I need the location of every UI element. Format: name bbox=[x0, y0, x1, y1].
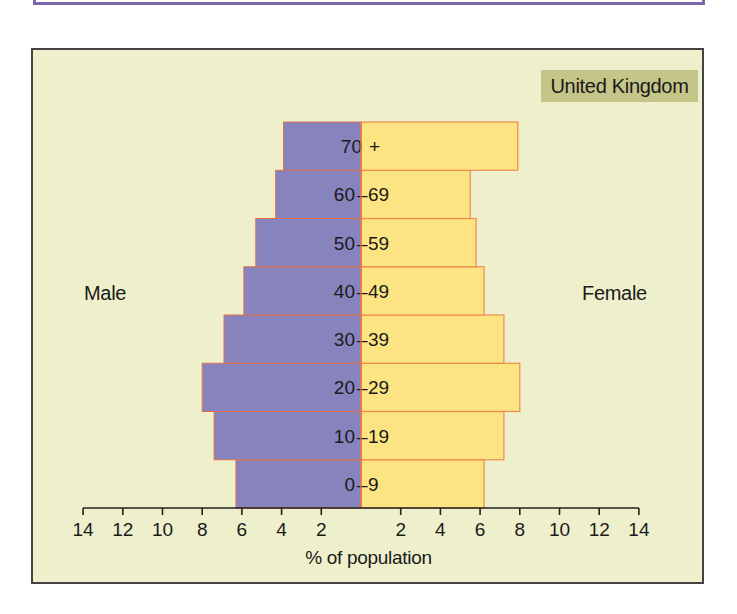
male-bars bbox=[202, 122, 361, 508]
male-label: Male bbox=[84, 282, 126, 305]
female-bars bbox=[361, 122, 520, 508]
tick-label: 4 bbox=[435, 519, 446, 540]
female-label: Female bbox=[582, 282, 647, 305]
tick-label: 6 bbox=[237, 519, 248, 540]
tick-label: 2 bbox=[395, 519, 406, 540]
tick-label: 6 bbox=[475, 519, 486, 540]
tick-label: 10 bbox=[152, 519, 173, 540]
x-axis: 14121086422468101214 bbox=[73, 122, 650, 540]
tick-label: 2 bbox=[316, 519, 327, 540]
tick-label: 8 bbox=[515, 519, 526, 540]
male-bar bbox=[236, 460, 361, 508]
country-label: United Kingdom bbox=[541, 70, 698, 102]
x-axis-title: % of population bbox=[0, 547, 737, 569]
female-bar bbox=[361, 460, 484, 508]
tick-label: 14 bbox=[73, 519, 95, 540]
tick-label: 14 bbox=[628, 519, 650, 540]
tick-label: 8 bbox=[197, 519, 208, 540]
female-bar bbox=[361, 122, 518, 170]
tick-label: 10 bbox=[549, 519, 570, 540]
tick-label: 12 bbox=[112, 519, 133, 540]
tick-label: 12 bbox=[589, 519, 610, 540]
tick-label: 4 bbox=[276, 519, 287, 540]
